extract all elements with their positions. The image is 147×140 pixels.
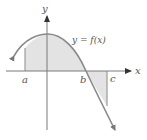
function-label: y = f(x)	[71, 35, 106, 45]
point-label-c: c	[110, 73, 116, 84]
point-label-a: a	[22, 74, 28, 85]
function-graph: y x y = f(x) a b c	[0, 0, 147, 140]
y-axis-label: y	[41, 3, 48, 14]
x-axis-label: x	[135, 65, 141, 76]
point-label-b: b	[80, 74, 86, 85]
